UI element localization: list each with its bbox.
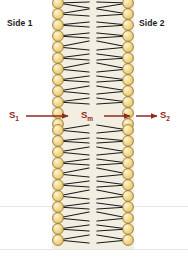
flux-label-s2: S2 xyxy=(160,109,170,122)
flux-label-sm: Sm xyxy=(81,109,93,122)
flux-label-s1: S1 xyxy=(9,109,19,122)
figure-canvas: Side 1 Side 2 S1 Sm S2 xyxy=(0,0,188,258)
flux-subscript-sm: m xyxy=(87,115,93,122)
flux-subscript-s2: 2 xyxy=(166,115,170,122)
side-2-label: Side 2 xyxy=(139,18,165,28)
side-1-label: Side 1 xyxy=(7,18,33,28)
lipid-bilayer-graphic xyxy=(0,0,188,258)
flux-subscript-s1: 1 xyxy=(15,115,19,122)
lipid-tails-group xyxy=(58,2,128,243)
